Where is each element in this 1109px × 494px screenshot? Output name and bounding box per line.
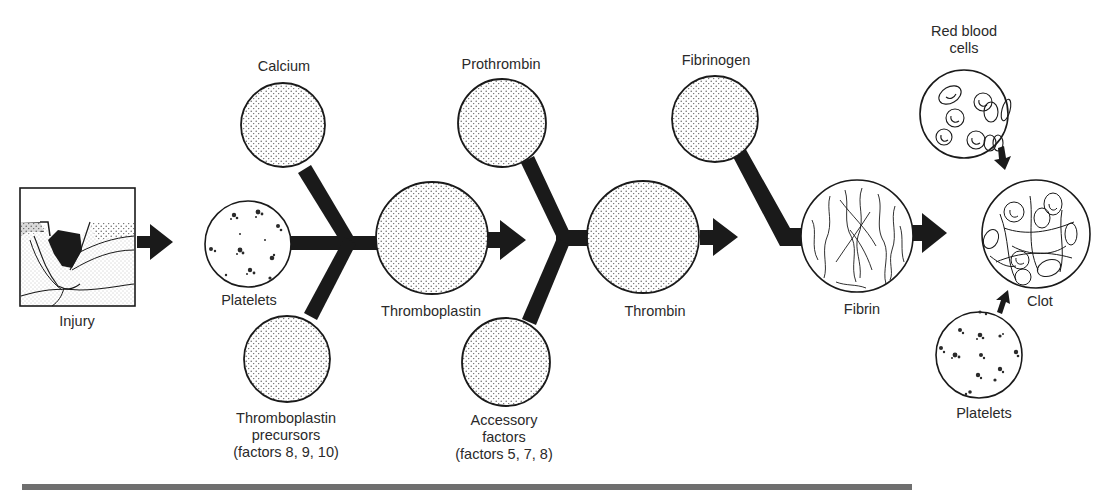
injury-label: Injury [59,313,94,330]
calcium-circle [241,83,325,167]
thrombin-circle [587,181,699,293]
prothrombin-label: Prothrombin [462,56,541,73]
platelets-input-label: Platelets [221,292,277,309]
junction-thrombin [521,156,592,325]
thromboplastin-circle [376,182,488,294]
clotting-cascade-diagram [0,0,1109,494]
thromboplastin-label: Thromboplastin [381,303,481,320]
fibrinogen-circle [672,76,758,162]
accessory-factors-label: Accessory factors (factors 5, 7, 8) [455,412,553,463]
arrow-injury [137,224,173,260]
fibrinogen-label: Fibrinogen [682,52,751,69]
accessory-label-line-3: (factors 5, 7, 8) [455,446,553,463]
calcium-label: Calcium [258,58,310,75]
accessory-factors-circle [462,318,550,406]
injury-illustration [20,188,135,306]
arrow-rbc-to-clot [994,146,1011,170]
arrow-fibrin [910,213,947,253]
connector-fibrinogen [731,146,804,246]
rbc-label-line-1: Red blood [931,23,997,40]
clot-label: Clot [1027,293,1053,310]
bottom-rule [22,484,912,490]
fibrin-label: Fibrin [844,301,880,318]
rbc-label-line-2: cells [931,40,997,57]
red-blood-cells-label: Red blood cells [931,23,997,57]
arrow-platelets-to-clot [996,290,1010,314]
precursors-label: Thromboplastin precursors (factors 8, 9,… [233,410,339,461]
arrow-thromboplastin [485,220,526,260]
prothrombin-circle [458,79,546,167]
precursors-label-line-2: precursors [233,427,339,444]
platelets-input-circle [205,201,291,287]
precursors-circle [244,316,330,402]
platelets-clot-label: Platelets [956,405,1012,422]
precursors-label-line-3: (factors 8, 9, 10) [233,444,339,461]
accessory-label-line-2: factors [455,429,553,446]
thrombin-label: Thrombin [624,303,685,320]
accessory-label-line-1: Accessory [455,412,553,429]
fibrin-circle [801,180,913,292]
junction-thromboplastin [290,165,382,320]
arrow-thrombin [700,218,738,256]
precursors-label-line-1: Thromboplastin [233,410,339,427]
red-blood-cells-circle [920,70,1008,158]
